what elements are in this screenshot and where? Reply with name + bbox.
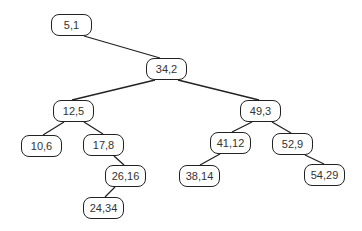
tree-node: 12,5 bbox=[53, 100, 94, 122]
tree-node: 38,14 bbox=[179, 165, 220, 187]
tree-node: 54,29 bbox=[304, 164, 345, 186]
tree-edge bbox=[105, 187, 115, 197]
tree-edge bbox=[232, 122, 252, 132]
tree-node: 34,2 bbox=[146, 58, 187, 80]
tree-edge bbox=[72, 80, 155, 100]
tree-node: 26,16 bbox=[105, 165, 146, 187]
tree-node: 52,9 bbox=[272, 133, 313, 155]
tree-edge bbox=[272, 122, 291, 133]
tree-edge bbox=[114, 156, 124, 165]
tree-edge bbox=[84, 36, 160, 58]
tree-node: 5,1 bbox=[51, 14, 92, 36]
tree-node: 10,6 bbox=[21, 135, 62, 157]
tree-node: 17,8 bbox=[83, 134, 124, 156]
tree-edge bbox=[200, 154, 220, 165]
tree-node: 24,34 bbox=[83, 197, 124, 219]
tree-edge bbox=[43, 122, 64, 135]
tree-edge bbox=[178, 80, 259, 100]
tree-edge bbox=[305, 155, 324, 164]
tree-edge bbox=[84, 122, 103, 134]
tree-node: 41,12 bbox=[210, 132, 251, 154]
tree-node: 49,3 bbox=[240, 100, 281, 122]
